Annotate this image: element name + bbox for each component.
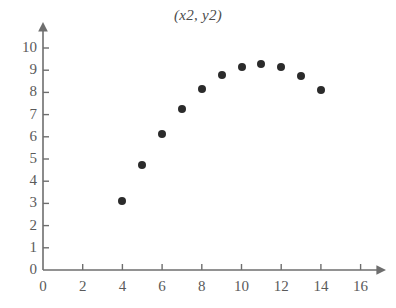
data-point	[277, 63, 285, 71]
data-point	[158, 130, 166, 138]
data-point	[257, 60, 265, 68]
data-point	[198, 85, 206, 93]
data-point	[178, 105, 186, 113]
scatter-plot-figure: (x2, y2) 012345678910 0246810121416	[0, 0, 396, 308]
data-point	[218, 71, 226, 79]
data-point	[138, 161, 146, 169]
data-point	[238, 63, 246, 71]
data-point	[297, 72, 305, 80]
data-point	[317, 86, 325, 94]
data-points-layer	[0, 0, 396, 308]
data-point	[118, 197, 126, 205]
